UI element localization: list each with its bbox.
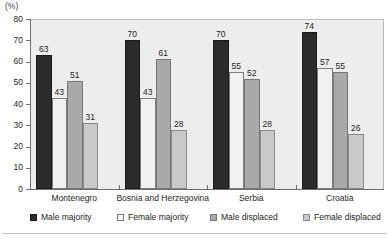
y-axis-tick-label: 60 (1, 57, 23, 66)
bar-value-label: 51 (63, 71, 87, 80)
bar-value-label: 31 (79, 113, 103, 122)
x-axis-group-separator (296, 185, 297, 189)
legend-label: Female displaced (314, 212, 381, 223)
legend-label: Female majority (128, 212, 188, 223)
y-axis-tick-label: 70 (1, 36, 23, 45)
chart-legend: Male majorityFemale majorityMale displac… (30, 212, 385, 226)
bar[interactable] (348, 134, 364, 189)
legend-item[interactable]: Female displaced (303, 212, 381, 223)
bar[interactable] (260, 130, 276, 190)
legend-swatch-icon (30, 214, 37, 221)
bar-group: 63435131 (30, 19, 119, 189)
bar[interactable] (52, 98, 68, 189)
bar[interactable] (36, 55, 52, 189)
legend-item[interactable]: Male majority (30, 212, 92, 223)
bar[interactable] (244, 79, 260, 190)
legend-item[interactable]: Female majority (117, 212, 188, 223)
bar[interactable] (229, 72, 245, 189)
x-axis-group-separator (119, 185, 120, 189)
y-axis-tick-label: 40 (1, 100, 23, 109)
legend-swatch-icon (303, 214, 310, 221)
unit-label: (%) (5, 1, 18, 11)
bar-value-label: 70 (121, 30, 145, 39)
legend-swatch-icon (117, 214, 124, 221)
bar-value-label: 70 (209, 30, 233, 39)
bar[interactable] (125, 40, 141, 189)
legend-swatch-icon (210, 214, 217, 221)
bar[interactable] (67, 81, 83, 189)
y-axis-tick-label: 30 (1, 121, 23, 130)
bar[interactable] (83, 123, 99, 189)
bar-value-label: 26 (344, 124, 368, 133)
y-axis-tick-label: 80 (1, 15, 23, 24)
legend-label: Male displaced (221, 212, 278, 223)
bar-value-label: 28 (167, 120, 191, 129)
bar[interactable] (302, 32, 318, 189)
x-axis-group-separator (207, 185, 208, 189)
bar-group: 74575526 (296, 19, 385, 189)
x-axis-line (30, 189, 384, 190)
y-axis-tick-label: 10 (1, 163, 23, 172)
y-axis-tick (26, 189, 30, 190)
bar-value-label: 28 (256, 120, 280, 129)
bar-value-label: 74 (298, 22, 322, 31)
legend-label: Male majority (41, 212, 92, 223)
bar-value-label: 63 (32, 45, 56, 54)
y-axis-tick-label: 20 (1, 142, 23, 151)
bar-value-label: 52 (240, 69, 264, 78)
bar-value-label: 55 (329, 62, 353, 71)
bottom-divider (2, 233, 387, 234)
bar-chart: (%) 01020304050607080 634351317043612870… (0, 0, 389, 239)
y-axis-tick-label: 50 (1, 78, 23, 87)
bar-groups: 63435131704361287055522874575526 (30, 19, 384, 189)
bar[interactable] (317, 68, 333, 189)
bar-group: 70436128 (119, 19, 208, 189)
bar-value-label: 61 (152, 49, 176, 58)
legend-item[interactable]: Male displaced (210, 212, 278, 223)
bar[interactable] (171, 130, 187, 190)
bar[interactable] (140, 98, 156, 189)
x-axis-category-label: Croatia (284, 193, 389, 204)
bar-group: 70555228 (207, 19, 296, 189)
